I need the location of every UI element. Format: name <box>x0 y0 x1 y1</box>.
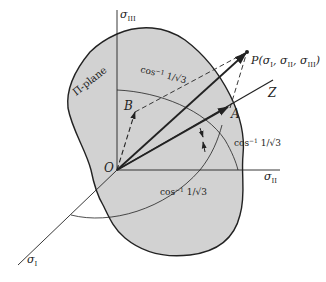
sigma-I-axis <box>18 170 117 265</box>
point-P-label: P(σI, σII, σIII) <box>250 54 320 69</box>
point-A-label: A <box>230 107 240 121</box>
angle-label-bottom: cos−1 1/√3 <box>160 186 207 197</box>
stress-space-diagram: σIII σII σI O B A Z P(σI, σII, σIII) Π-p… <box>0 0 326 282</box>
origin-label: O <box>104 161 114 175</box>
point-P <box>245 50 249 54</box>
sigma-III-label: σIII <box>120 8 136 23</box>
sigma-I-label: σI <box>27 253 38 268</box>
z-label: Z <box>267 86 277 100</box>
point-B-label: B <box>123 99 133 113</box>
pi-plane-region <box>68 28 244 256</box>
sigma-II-label: σII <box>264 170 277 185</box>
angle-label-right: cos−1 1/√3 <box>234 137 281 148</box>
